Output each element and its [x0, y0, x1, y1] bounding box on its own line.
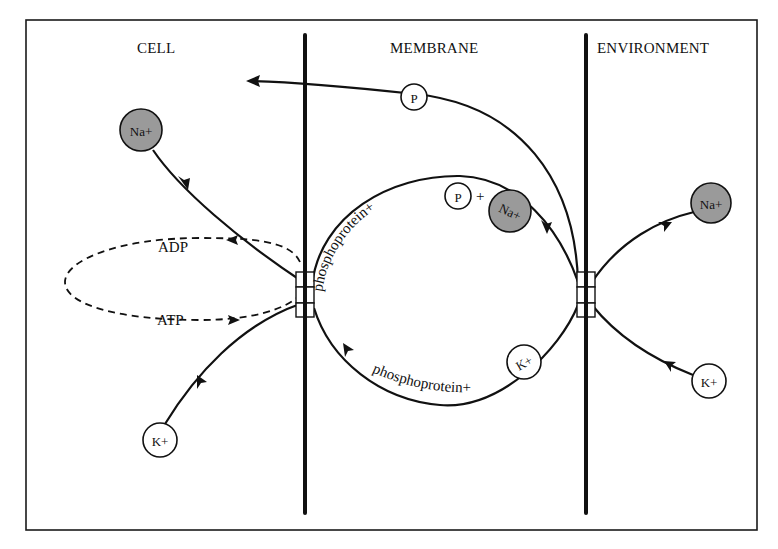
phosphate-top-label: P — [410, 91, 417, 106]
atp-label: ATP — [157, 312, 184, 328]
potassium-environment-to-transporter-path — [592, 305, 693, 375]
upper-phosphoprotein-label: phosphoprotein+ — [309, 198, 377, 292]
sodium-cell-to-transporter-path — [153, 150, 300, 280]
diagram-frame — [26, 20, 757, 530]
sodium-ion-environment-label: Na+ — [700, 197, 723, 212]
potassium-ion-membrane: K+ — [507, 345, 541, 379]
sodium-ion-cell-label: Na+ — [130, 124, 153, 139]
sodium-transporter-to-environment-path — [592, 212, 694, 282]
atp-arrowhead-icon — [228, 315, 240, 325]
sodium-ion-cell: Na+ — [120, 109, 162, 151]
region-label-environment: ENVIRONMENT — [597, 40, 709, 57]
phosphate-upper-arc: P — [445, 183, 471, 209]
potassium-cell-arrowhead-icon — [197, 375, 207, 389]
sodium-potassium-pump-diagram: Na+ Na+ Na+ K+ K+ K+ P P + phosphoprotei… — [0, 0, 778, 549]
potassium-ion-cell: K+ — [143, 423, 177, 457]
phosphate-release-arrowhead-icon — [246, 75, 260, 87]
phosphate-upper-arc-label: P — [454, 190, 461, 205]
potassium-ion-environment: K+ — [692, 364, 726, 398]
sodium-ion-environment: Na+ — [691, 183, 731, 223]
potassium-ion-cell-label: K+ — [152, 434, 169, 449]
adp-label: ADP — [158, 239, 188, 255]
potassium-ion-environment-label: K+ — [701, 375, 718, 390]
region-label-cell: CELL — [137, 40, 175, 57]
outer-transporter — [577, 272, 595, 317]
region-label-membrane: MEMBRANE — [390, 40, 478, 57]
adp-arrowhead-icon — [226, 235, 238, 245]
sodium-ion-membrane: Na+ — [489, 190, 531, 232]
lower-arc-arrowhead-icon — [343, 343, 354, 357]
upper-plus-sign: + — [476, 188, 484, 204]
phosphate-top: P — [401, 84, 427, 110]
